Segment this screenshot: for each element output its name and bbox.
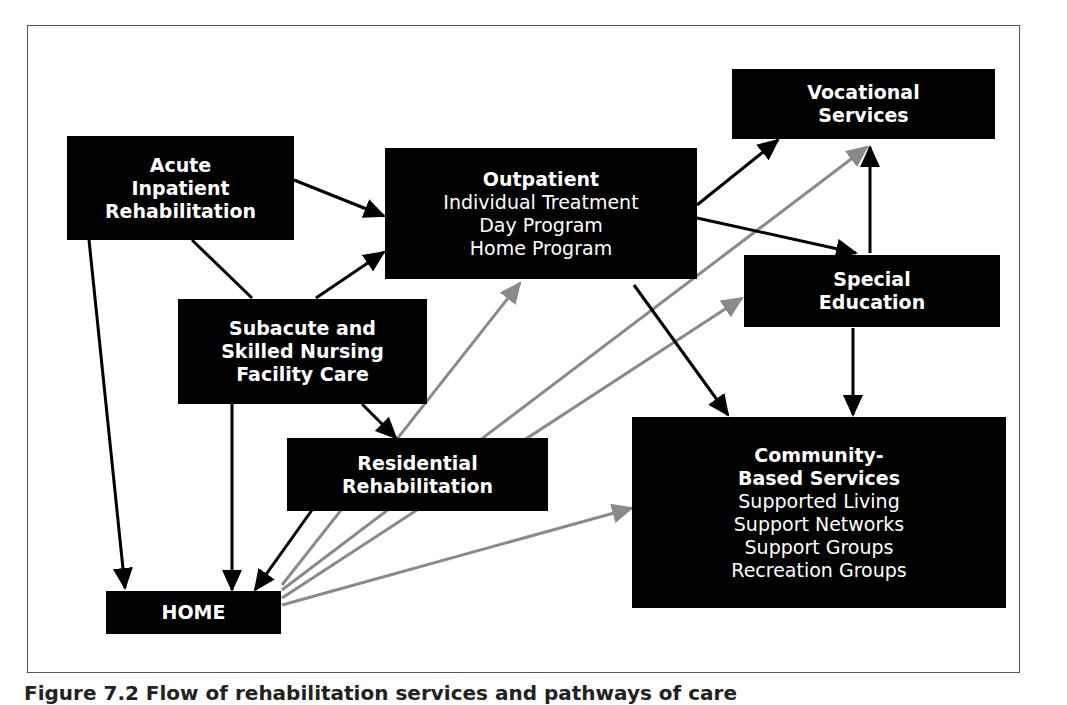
edge-outpatient-community [634, 285, 728, 415]
edge-acute-subacute [192, 240, 252, 298]
node-item: Recreation Groups [731, 559, 906, 582]
node-title-line: Residential [357, 452, 477, 475]
edge-outpatient-vocational [697, 140, 778, 205]
node-special-education: Special Education [744, 255, 1000, 327]
node-title-line: Inpatient [131, 177, 229, 200]
node-item: Support Groups [745, 536, 894, 559]
node-title-line: Rehabilitation [105, 200, 256, 223]
node-item: Support Networks [734, 513, 904, 536]
node-item: Supported Living [738, 490, 899, 513]
node-title-line: Community- [754, 444, 884, 467]
node-residential-rehabilitation: Residential Rehabilitation [287, 438, 548, 511]
node-community-based-services: Community- Based Services Supported Livi… [632, 417, 1006, 608]
node-title-line: Subacute and [229, 317, 376, 340]
node-title-line: Acute [150, 154, 211, 177]
figure-caption: Figure 7.2 Flow of rehabilitation servic… [24, 681, 737, 705]
node-title-line: Based Services [738, 467, 900, 490]
node-title-line: Education [819, 291, 925, 314]
node-title: HOME [162, 601, 226, 624]
node-acute-inpatient-rehabilitation: Acute Inpatient Rehabilitation [67, 136, 294, 240]
edge-acute-outpatient [294, 180, 384, 216]
node-subacute-skilled-nursing: Subacute and Skilled Nursing Facility Ca… [178, 299, 427, 404]
node-item: Individual Treatment [443, 191, 638, 214]
edge-residential-home [255, 510, 312, 590]
node-title-line: Services [818, 104, 908, 127]
node-home: HOME [106, 591, 281, 634]
node-title-line: Rehabilitation [342, 475, 493, 498]
node-vocational-services: Vocational Services [732, 69, 995, 139]
edge-outpatient-special-ed [697, 218, 856, 253]
node-title-line: Special [833, 268, 910, 291]
edge-subacute-outpatient [316, 252, 384, 298]
node-outpatient: Outpatient Individual Treatment Day Prog… [385, 148, 697, 279]
edge-subacute-residential [362, 404, 396, 438]
edge-acute-home [89, 240, 125, 588]
node-title-line: Vocational [807, 81, 919, 104]
node-title-line: Skilled Nursing [221, 340, 384, 363]
node-item: Home Program [470, 237, 612, 260]
node-title: Outpatient [483, 168, 599, 191]
node-item: Day Program [479, 214, 603, 237]
node-title-line: Facility Care [236, 363, 369, 386]
edge-home-community [282, 508, 632, 605]
